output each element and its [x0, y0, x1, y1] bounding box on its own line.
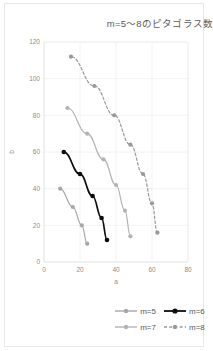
chart-legend: m=5 m=6 m=7 m=8	[0, 303, 209, 335]
x-tick-label: 60	[148, 266, 156, 273]
y-tick-label: 20	[33, 222, 41, 229]
legend-line-icon	[115, 306, 137, 316]
data-point-m7[interactable]	[114, 183, 118, 187]
x-tick-label: 80	[184, 266, 192, 273]
legend-row: m=5 m=6	[0, 303, 209, 319]
legend-label: m=5	[140, 307, 156, 316]
data-point-m7[interactable]	[85, 132, 89, 136]
legend-item-m7[interactable]: m=7	[115, 322, 156, 332]
data-point-m5[interactable]	[71, 205, 75, 209]
data-point-m6[interactable]	[78, 172, 83, 177]
data-point-m6[interactable]	[62, 150, 67, 155]
legend-item-m6[interactable]: m=6	[164, 306, 205, 316]
legend-label: m=7	[140, 323, 156, 332]
data-point-m5[interactable]	[80, 223, 84, 227]
x-tick-label: 40	[112, 266, 120, 273]
legend-item-m5[interactable]: m=5	[115, 306, 156, 316]
data-point-m7[interactable]	[65, 106, 69, 110]
data-point-m8[interactable]	[69, 55, 73, 59]
data-point-m7[interactable]	[123, 209, 127, 213]
series-line-m5	[60, 189, 87, 244]
data-point-m5[interactable]	[85, 242, 89, 246]
y-tick-label: 60	[33, 148, 41, 155]
legend-dashed-line-icon	[164, 322, 186, 332]
data-point-m6[interactable]	[99, 216, 104, 221]
series-line-m6	[64, 152, 107, 240]
y-tick-label: 100	[29, 75, 40, 82]
legend-item-m8[interactable]: m=8	[164, 322, 205, 332]
series-line-m8	[71, 57, 157, 233]
data-point-m8[interactable]	[150, 201, 154, 205]
legend-line-icon	[115, 322, 137, 332]
data-point-m8[interactable]	[112, 113, 116, 117]
plot-area: 020406080100120020406080ab	[0, 0, 209, 351]
y-tick-label: 0	[36, 258, 40, 265]
legend-label: m=8	[189, 323, 205, 332]
chart-canvas: 020406080100120020406080ab	[0, 0, 209, 351]
data-point-m6[interactable]	[90, 194, 95, 199]
x-axis-title: a	[114, 278, 118, 285]
legend-label: m=6	[189, 307, 205, 316]
y-tick-label: 120	[29, 38, 40, 45]
x-tick-label: 0	[42, 266, 46, 273]
data-point-m8[interactable]	[155, 231, 159, 235]
y-tick-label: 40	[33, 185, 41, 192]
y-tick-label: 80	[33, 112, 41, 119]
data-point-m6[interactable]	[105, 238, 110, 243]
legend-line-icon	[164, 306, 186, 316]
legend-row: m=7 m=8	[0, 319, 209, 335]
y-axis-title: b	[8, 150, 15, 154]
data-point-m8[interactable]	[128, 143, 132, 147]
x-tick-label: 20	[76, 266, 84, 273]
data-point-m7[interactable]	[101, 157, 105, 161]
data-point-m8[interactable]	[141, 172, 145, 176]
data-point-m7[interactable]	[128, 234, 132, 238]
data-point-m5[interactable]	[58, 187, 62, 191]
data-point-m8[interactable]	[92, 84, 96, 88]
